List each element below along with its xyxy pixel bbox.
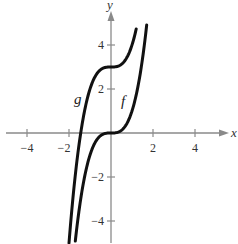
x-tick-label: −4	[21, 141, 34, 155]
x-axis-arrow-icon	[219, 130, 229, 137]
x-tick-label: 2	[150, 141, 156, 155]
y-axis-label: y	[105, 0, 113, 12]
x-tick-label: 4	[192, 141, 198, 155]
y-tick-label: −2	[91, 170, 104, 184]
x-axis-label: x	[230, 125, 237, 140]
curve-g-label: g	[74, 91, 82, 107]
y-tick-label: 2	[98, 82, 104, 96]
y-tick-label: 4	[98, 38, 104, 52]
curve-f-label: f	[121, 93, 127, 109]
x-tick-label: −2	[58, 141, 71, 155]
function-graph: −4 −2 2 4 4 2 −2 −4 x y g f	[0, 0, 238, 244]
y-tick-label: −4	[91, 214, 104, 228]
y-axis-arrow-icon	[108, 11, 115, 21]
axes	[6, 11, 229, 243]
